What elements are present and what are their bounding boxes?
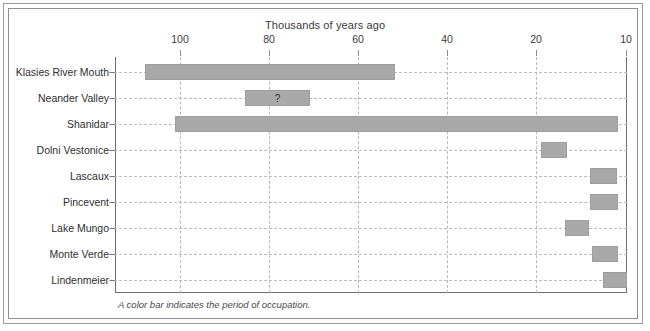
chart-caption: A color bar indicates the period of occu… bbox=[118, 299, 310, 310]
y-tick-mark bbox=[110, 254, 115, 255]
y-axis-label-lascaux: Lascaux bbox=[0, 170, 109, 182]
y-axis-label-lake-mungo: Lake Mungo bbox=[0, 222, 109, 234]
y-axis-label-lindenmeier: Lindenmeier bbox=[0, 274, 109, 286]
x-tick-mark bbox=[180, 50, 181, 56]
y-axis-label-klasies-river-mouth: Klasies River Mouth bbox=[0, 66, 109, 78]
x-tick-label: 80 bbox=[263, 33, 275, 45]
x-tick-label: 40 bbox=[441, 33, 453, 45]
occupation-bar[interactable] bbox=[541, 142, 567, 158]
x-tick-label: 100 bbox=[171, 33, 189, 45]
x-tick-label: 10 bbox=[620, 33, 632, 45]
y-tick-mark bbox=[110, 176, 115, 177]
y-tick-mark bbox=[110, 228, 115, 229]
chart-row bbox=[115, 59, 627, 85]
occupation-bar[interactable] bbox=[175, 116, 618, 132]
occupation-bar[interactable] bbox=[565, 220, 589, 236]
y-tick-mark bbox=[110, 72, 115, 73]
occupation-bar[interactable] bbox=[145, 64, 395, 80]
y-axis-label-shanidar: Shanidar bbox=[0, 118, 109, 130]
range-chart: Thousands of years ago 1008060402010 ? K… bbox=[0, 0, 650, 331]
occupation-bar[interactable] bbox=[590, 194, 618, 210]
y-tick-mark bbox=[110, 124, 115, 125]
chart-row bbox=[115, 215, 627, 241]
occupation-bar[interactable] bbox=[592, 246, 618, 262]
x-tick-mark bbox=[358, 50, 359, 56]
horizontal-gridline bbox=[109, 280, 627, 281]
y-tick-mark bbox=[110, 280, 115, 281]
chart-row bbox=[115, 111, 627, 137]
horizontal-gridline bbox=[109, 98, 627, 99]
chart-row bbox=[115, 163, 627, 189]
occupation-bar[interactable] bbox=[590, 168, 617, 184]
x-tick-label: 60 bbox=[352, 33, 364, 45]
bar-uncertainty-label: ? bbox=[246, 91, 309, 105]
y-tick-mark bbox=[110, 202, 115, 203]
y-tick-mark bbox=[110, 98, 115, 99]
x-tick-mark bbox=[536, 50, 537, 56]
chart-row bbox=[115, 241, 627, 267]
horizontal-gridline bbox=[109, 202, 627, 203]
chart-row: ? bbox=[115, 85, 627, 111]
y-axis-label-pincevent: Pincevent bbox=[0, 196, 109, 208]
occupation-bar[interactable]: ? bbox=[245, 90, 310, 106]
x-tick-mark bbox=[626, 50, 627, 56]
y-tick-mark bbox=[110, 150, 115, 151]
plot-area: 1008060402010 ? bbox=[115, 57, 627, 293]
chart-title: Thousands of years ago bbox=[0, 19, 650, 31]
y-axis-label-dolni-vestonice: Dolni Vestonice bbox=[0, 144, 109, 156]
horizontal-gridline bbox=[109, 254, 627, 255]
occupation-bar[interactable] bbox=[603, 272, 627, 288]
y-axis-label-neander-valley: Neander Valley bbox=[0, 92, 109, 104]
chart-row bbox=[115, 267, 627, 293]
chart-row bbox=[115, 137, 627, 163]
x-tick-label: 20 bbox=[530, 33, 542, 45]
x-tick-mark bbox=[269, 50, 270, 56]
y-axis-label-monte-verde: Monte Verde bbox=[0, 248, 109, 260]
horizontal-gridline bbox=[109, 176, 627, 177]
chart-row bbox=[115, 189, 627, 215]
x-tick-mark bbox=[447, 50, 448, 56]
horizontal-gridline bbox=[109, 228, 627, 229]
